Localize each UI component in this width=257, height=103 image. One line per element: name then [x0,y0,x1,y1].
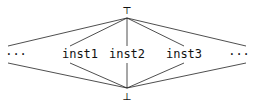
lattice-diagram: ⊤ ⊥ ··· inst1 inst2 inst3 ··· [0,0,257,103]
edge-left-ellipsis-bottom [8,63,127,88]
node-inst1: inst1 [62,47,98,61]
top-element-label: ⊤ [122,5,131,16]
node-left-ellipsis: ··· [5,47,27,61]
edge-top-inst3 [127,18,184,46]
edge-top-right-ellipsis [127,18,246,46]
node-inst3: inst3 [166,47,202,61]
edge-right-ellipsis-bottom [127,63,246,88]
bottom-element-label: ⊥ [122,91,131,102]
node-right-ellipsis: ··· [228,47,250,61]
node-inst2: inst2 [109,47,145,61]
edge-inst3-bottom [127,63,184,88]
edge-top-inst1 [70,18,127,46]
edge-top-left-ellipsis [8,18,127,46]
edge-inst1-bottom [70,63,127,88]
